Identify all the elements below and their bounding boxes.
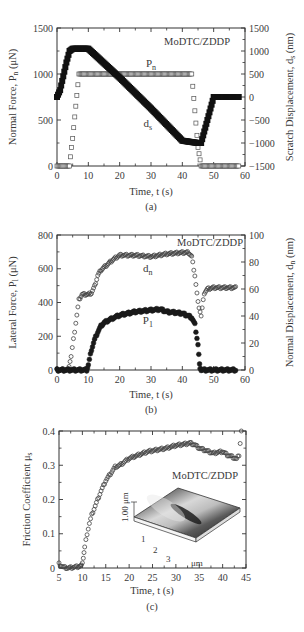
chart-c-xtick: 45 — [241, 572, 251, 583]
chart-a-y2tick: 1500 — [249, 23, 269, 34]
chart-a-ytick: 0 — [48, 161, 53, 172]
chart-a-xtick: 0 — [55, 170, 60, 181]
chart-a-y2tick: −1500 — [249, 161, 275, 172]
chart-a-y2label: Scratch Displacement, ds (nm) — [284, 32, 297, 161]
series-label-ds: ds — [144, 117, 153, 132]
series-label-dn: dn — [143, 262, 153, 277]
chart-a-plot-area: 0102030405060050010001500−1500−1000−5000… — [7, 23, 297, 182]
chart-a-xtick: 40 — [177, 170, 187, 181]
chart-c-xlabel: Time, t (s) — [130, 585, 174, 597]
chart-c-xtick: 15 — [101, 572, 111, 583]
chart-b-ytick: 0 — [48, 365, 53, 376]
chart-b-xtick: 10 — [83, 374, 93, 385]
chart-b-panel-label: (b) — [145, 404, 158, 416]
series-label-Pl: P1 — [143, 314, 153, 329]
chart-a-ytick: 1000 — [33, 69, 53, 80]
chart-a-xtick: 10 — [83, 170, 93, 181]
afm-axis-unit: μm — [191, 558, 203, 568]
afm-inset-image: 1.00 μm 1 2 3 μm — [120, 488, 240, 568]
chart-b-ytick: 400 — [38, 297, 53, 308]
afm-tick-3: 3 — [166, 554, 171, 564]
chart-b-ylabel: Lateral Force, Pl (μN) — [7, 256, 20, 349]
afm-z-scale-label: 1.00 μm — [120, 492, 130, 522]
chart-a-xtick: 20 — [115, 170, 125, 181]
chart-c-ytick: 0.2 — [43, 494, 56, 505]
chart-b-xlabel: Time, t (s) — [129, 389, 173, 401]
chart-c-xtick: 35 — [194, 572, 204, 583]
chart-b-annotation: MoDTC/ZDDP — [177, 237, 243, 248]
chart-b-y2tick: 20 — [249, 338, 259, 349]
chart-b-y2label: Normal Displacement, dn (nm) — [284, 237, 297, 367]
chart-a-y2tick: 500 — [249, 69, 264, 80]
chart-a-xlabel: Time, t (s) — [129, 186, 173, 198]
chart-a-annotation: MoDTC/ZDDP — [164, 36, 230, 47]
chart-c-xtick: 25 — [148, 572, 158, 583]
chart-c-ylabel: Friction Coefficient μs — [21, 452, 34, 546]
chart-a-xtick: 50 — [209, 170, 219, 181]
chart-a-y2tick: −1000 — [249, 138, 275, 149]
chart-b-y2tick: 60 — [249, 284, 259, 295]
chart-c-xtick: 40 — [218, 572, 228, 583]
chart-c-annotation: MoDTC/ZDDP — [172, 470, 238, 481]
chart-a-ytick: 1500 — [33, 23, 53, 34]
chart-a-xtick: 60 — [240, 170, 250, 181]
chart-b-y2tick: 0 — [249, 365, 254, 376]
chart-b-xtick: 50 — [209, 374, 219, 385]
chart-a-ytick: 500 — [38, 115, 53, 126]
chart-c-ytick: 0.1 — [43, 528, 56, 539]
chart-b-ytick: 800 — [38, 230, 53, 241]
chart-b-xtick: 20 — [115, 374, 125, 385]
chart-b-xtick: 0 — [55, 374, 60, 385]
chart-c-ytick: 0 — [50, 563, 55, 574]
chart-b-plot-area: 01020304050600200400600800020406080100No… — [7, 230, 297, 386]
chart-b-xtick: 30 — [146, 374, 156, 385]
chart-a-y2tick: −500 — [249, 115, 270, 126]
chart-c-xtick: 5 — [57, 572, 62, 583]
chart-a-panel-label: (a) — [145, 201, 157, 213]
chart-panel-a: 0102030405060050010001500−1500−1000−5000… — [7, 23, 297, 214]
series-label-Pn: Pn — [146, 57, 156, 72]
chart-b-ytick: 600 — [38, 263, 53, 274]
chart-a-ylabel: Normal Force, Pn (μN) — [7, 48, 20, 145]
chart-b-y2tick: 80 — [249, 257, 259, 268]
chart-c-ytick: 0.4 — [43, 426, 56, 437]
chart-b-xtick: 60 — [240, 374, 250, 385]
chart-c-xtick: 30 — [171, 572, 181, 583]
chart-c-panel-label: (c) — [146, 601, 158, 613]
chart-a-y2tick: 0 — [249, 92, 254, 103]
afm-tick-1: 1 — [141, 534, 146, 544]
chart-c-xtick: 10 — [77, 572, 87, 583]
chart-a-y2tick: 1000 — [249, 46, 269, 57]
figure: 0102030405060050010001500−1500−1000−5000… — [0, 0, 304, 632]
chart-b-y2tick: 40 — [249, 311, 259, 322]
chart-b-y2tick: 100 — [249, 230, 264, 241]
chart-panel-c: 5101520253035404500.10.20.30.4Friction C… — [21, 426, 251, 614]
chart-a-xtick: 30 — [146, 170, 156, 181]
chart-panel-b: 01020304050600200400600800020406080100No… — [7, 230, 297, 417]
chart-c-ytick: 0.3 — [43, 460, 56, 471]
chart-b-xtick: 40 — [177, 374, 187, 385]
afm-tick-2: 2 — [153, 545, 158, 555]
chart-b-ytick: 200 — [38, 331, 53, 342]
chart-c-xtick: 20 — [124, 572, 134, 583]
